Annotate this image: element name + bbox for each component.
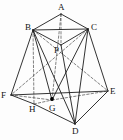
edge-CD xyxy=(75,29,88,124)
vertex-label-B: B xyxy=(25,23,31,32)
geometry-figure: ABCPFEHGD xyxy=(0,0,123,140)
geometry-canvas xyxy=(0,0,123,140)
edge-BC xyxy=(33,29,88,30)
edge-PD xyxy=(61,45,75,124)
edge-AG xyxy=(52,14,61,100)
edge-AB xyxy=(33,14,61,30)
edge-ED xyxy=(75,91,108,124)
vertex-label-C: C xyxy=(91,23,97,32)
vertex-label-P: P xyxy=(54,46,59,55)
edge-BP xyxy=(33,30,61,45)
edge-FH xyxy=(11,95,34,104)
edge-BF xyxy=(11,30,33,95)
point-marker-G xyxy=(50,97,54,101)
edge-AC xyxy=(61,14,88,29)
vertex-label-D: D xyxy=(72,127,79,136)
edge-CE xyxy=(88,29,108,91)
vertex-label-H: H xyxy=(29,105,36,114)
vertex-label-A: A xyxy=(58,3,65,12)
edge-BG xyxy=(33,30,52,100)
vertex-label-E: E xyxy=(110,87,116,96)
edge-BH xyxy=(33,30,34,104)
vertex-label-G: G xyxy=(49,104,56,113)
vertex-label-F: F xyxy=(1,91,6,100)
point-markers-group xyxy=(50,97,54,101)
